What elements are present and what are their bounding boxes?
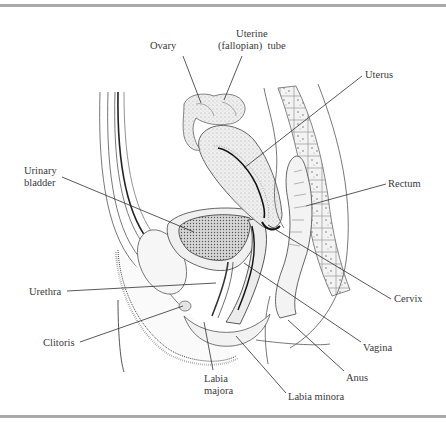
leader-line-labia-minora xyxy=(236,336,286,393)
rectum-shape xyxy=(276,156,312,318)
thigh-outline xyxy=(118,300,124,372)
label-uterine-tube: Uterine (fallopian) tube xyxy=(218,28,286,52)
label-ovary: Ovary xyxy=(150,40,176,52)
leader-line-urinary-bladder xyxy=(62,177,194,232)
leader-line-anus xyxy=(288,320,344,371)
label-rectum: Rectum xyxy=(388,178,421,190)
leader-line-uterine-tube xyxy=(224,56,242,100)
label-cervix: Cervix xyxy=(394,293,423,305)
label-vagina: Vagina xyxy=(363,342,392,354)
label-labia-minora: Labia minora xyxy=(288,391,344,403)
label-urinary-bladder: Urinary bladder xyxy=(24,165,57,189)
label-clitoris: Clitoris xyxy=(43,337,75,349)
label-anus: Anus xyxy=(346,372,368,384)
anatomy-illustration xyxy=(0,0,446,430)
label-uterus: Uterus xyxy=(365,69,393,81)
label-urethra: Urethra xyxy=(29,286,61,298)
label-labia-majora: Labia majora xyxy=(204,373,233,397)
